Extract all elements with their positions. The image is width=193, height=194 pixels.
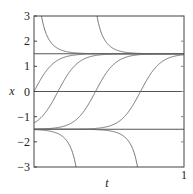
y-tick-label: 0 <box>24 85 30 99</box>
solution-curve <box>34 130 76 167</box>
solution-curve <box>34 129 138 167</box>
solution-curve <box>34 54 184 123</box>
chart: 3210−1−2−3 1 t x <box>0 0 193 194</box>
x-axis-label: t <box>105 176 109 190</box>
y-tick-label: −3 <box>17 160 30 174</box>
y-axis-label: x <box>8 84 15 98</box>
y-tick-label: −1 <box>17 110 30 124</box>
y-tick-label: −2 <box>17 135 30 149</box>
y-tick-label: 2 <box>24 34 30 48</box>
y-tick-label: 1 <box>24 59 30 73</box>
solution-curve <box>97 16 184 54</box>
y-tick-label: 3 <box>24 9 30 23</box>
solution-curve <box>34 54 184 92</box>
plot-curves <box>34 16 184 167</box>
x-tick-label-1: 1 <box>181 168 187 182</box>
